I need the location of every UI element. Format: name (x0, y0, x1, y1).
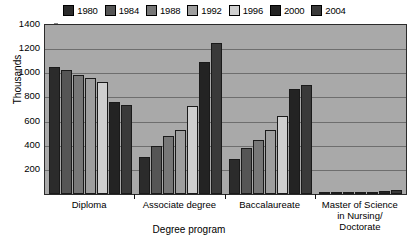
bar (241, 148, 252, 194)
bar (121, 105, 132, 194)
legend-swatch-icon (63, 5, 74, 16)
legend-entry: 1992 (187, 5, 221, 16)
legend-label: 2004 (325, 5, 345, 16)
bar (331, 192, 342, 194)
bar (211, 43, 222, 194)
legend-swatch-icon (146, 5, 157, 16)
legend-entry: 1980 (63, 5, 97, 16)
legend-label: 2000 (284, 5, 304, 16)
bar (109, 102, 120, 194)
plot-area (44, 24, 407, 195)
x-axis-category-label-line: Baccalaureate (226, 199, 314, 210)
bar (253, 140, 264, 194)
bar-group (226, 25, 316, 194)
bar (367, 192, 378, 194)
bar (391, 190, 402, 194)
y-axis-tick-label: 1200 (14, 43, 40, 53)
legend-label: 1988 (160, 5, 180, 16)
bar (49, 67, 60, 194)
x-axis-category-label-line: Associate degree (135, 199, 223, 210)
bar (163, 136, 174, 194)
legend-swatch-icon (311, 5, 322, 16)
bar (289, 89, 300, 194)
bar-groups (45, 25, 406, 194)
y-axis-tick-label: 200 (14, 164, 40, 174)
x-axis-category-label-line: Diploma (45, 199, 133, 210)
legend-label: 1980 (77, 5, 97, 16)
legend-swatch-icon (229, 5, 240, 16)
bar (61, 70, 72, 194)
legend-label: 1984 (119, 5, 139, 16)
legend-label: 1996 (243, 5, 263, 16)
legend-swatch-icon (105, 5, 116, 16)
chart-legend: 1980198419881992199620002004 (0, 2, 409, 18)
y-axis-tick-label: 400 (14, 140, 40, 150)
legend-entry: 2000 (270, 5, 304, 16)
x-axis-category-label-line: in Nursing/ (316, 210, 404, 221)
x-axis-category-label-line: Master of Science (316, 199, 404, 210)
bar-group (45, 25, 135, 194)
bar (175, 130, 186, 194)
bar (319, 192, 330, 194)
bar-group (135, 25, 225, 194)
y-axis-tick-label: 800 (14, 92, 40, 102)
bar-group (316, 25, 406, 194)
bar (139, 157, 150, 194)
bar (97, 82, 108, 194)
x-axis-title: Degree program (44, 224, 334, 235)
bar (301, 85, 312, 194)
legend-swatch-icon (270, 5, 281, 16)
bar (379, 191, 390, 194)
bar-chart: 1980198419881992199620002004 Thousands 2… (0, 0, 409, 240)
legend-entry: 1984 (105, 5, 139, 16)
bar (277, 116, 288, 194)
bar (85, 78, 96, 194)
bar (265, 130, 276, 194)
legend-entry: 1988 (146, 5, 180, 16)
legend-entry: 2004 (311, 5, 345, 16)
y-axis-tick-label: 600 (14, 116, 40, 126)
y-axis-ticks: 200400600800100012001400 (14, 20, 40, 195)
bar (151, 146, 162, 194)
y-axis-tick-label: 1000 (14, 68, 40, 78)
bar (73, 75, 84, 195)
legend-swatch-icon (187, 5, 198, 16)
bar (187, 106, 198, 194)
bar (229, 159, 240, 194)
y-axis-tick-label: 1400 (14, 19, 40, 29)
bar (355, 192, 366, 194)
bar (343, 192, 354, 194)
bar (199, 62, 210, 194)
legend-label: 1992 (201, 5, 221, 16)
legend-entry: 1996 (229, 5, 263, 16)
